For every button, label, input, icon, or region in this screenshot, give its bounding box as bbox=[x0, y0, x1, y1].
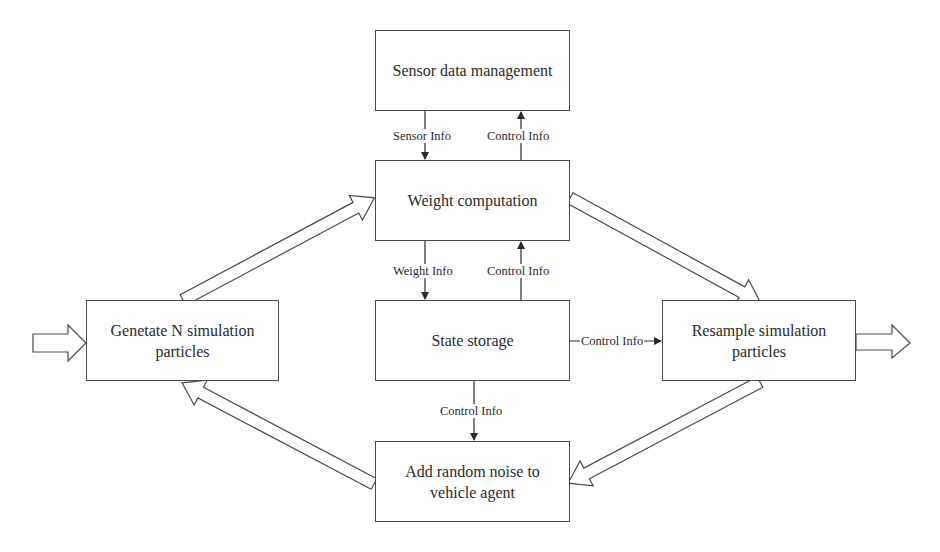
generate-box-label-line2: particles bbox=[155, 341, 209, 362]
add-noise-box: Add random noise to vehicle agent bbox=[375, 441, 570, 522]
output-block-arrow bbox=[856, 325, 910, 358]
resample-particles-box: Resample simulation particles bbox=[662, 300, 856, 381]
input-block-arrow bbox=[33, 325, 86, 361]
noise-box-label-line1: Add random noise to bbox=[405, 461, 540, 482]
noise-box-label-line2: vehicle agent bbox=[430, 482, 515, 503]
resample-to-noise-block-arrow bbox=[562, 370, 767, 496]
sensor-info-label: Sensor Info bbox=[392, 129, 452, 143]
noise-to-generate-block-arrow bbox=[176, 370, 381, 496]
sensor-data-management-box: Sensor data management bbox=[375, 30, 570, 111]
resample-box-label-line2: particles bbox=[732, 341, 786, 362]
control-info-label-bottom: Control Info bbox=[439, 404, 503, 418]
control-info-label-mid: Control Info bbox=[486, 264, 550, 278]
state-storage-box: State storage bbox=[375, 300, 570, 381]
weight-to-resample-block-arrow bbox=[563, 186, 767, 315]
generate-to-weight-block-arrow bbox=[176, 185, 381, 312]
weight-info-label: Weight Info bbox=[392, 264, 454, 278]
generate-particles-box: Genetate N simulation particles bbox=[86, 300, 279, 381]
sensor-box-label: Sensor data management bbox=[393, 60, 553, 81]
control-info-label-right: Control Info bbox=[580, 334, 644, 348]
weight-box-label: Weight computation bbox=[408, 190, 538, 211]
weight-computation-box: Weight computation bbox=[375, 160, 570, 241]
state-box-label: State storage bbox=[431, 330, 513, 351]
resample-box-label-line1: Resample simulation bbox=[692, 320, 827, 341]
control-info-label-top: Control Info bbox=[486, 129, 550, 143]
generate-box-label-line1: Genetate N simulation bbox=[111, 320, 255, 341]
